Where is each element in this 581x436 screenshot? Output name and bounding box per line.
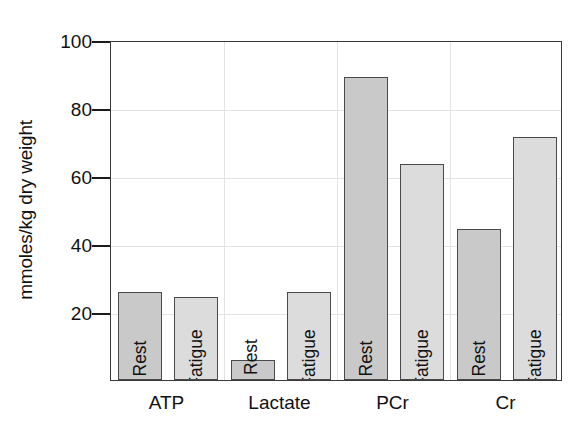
bar-pcr-rest: Rest: [344, 77, 388, 380]
bar-label: Fatigue: [185, 319, 206, 381]
gridline-horizontal: [111, 178, 561, 179]
y-axis-tick-labels: 20406080100: [46, 0, 92, 436]
bar-atp-fatigue: Fatigue: [174, 297, 218, 380]
y-tick-label: 60: [46, 168, 92, 187]
bar-label-outside: Rest: [241, 339, 262, 375]
category-label-lactate: Lactate: [248, 392, 310, 414]
bar-pcr-fatigue: Fatigue: [400, 164, 444, 380]
bar-cr-fatigue: Fatigue: [513, 137, 557, 380]
y-tick-label: 80: [46, 100, 92, 119]
y-tick-mark: [92, 109, 110, 111]
bar-lactate-fatigue: Fatigue: [287, 292, 331, 380]
y-tick-mark: [92, 313, 110, 315]
category-label-pcr: PCr: [376, 392, 409, 414]
category-label-atp: ATP: [149, 392, 185, 414]
bar-label: Rest: [355, 319, 376, 381]
plot-area: RestFatigueRestRestFatigueRestFatigueRes…: [110, 41, 562, 381]
bar-cr-rest: Rest: [457, 229, 501, 380]
category-label-cr: Cr: [495, 392, 515, 414]
bar-label: Fatigue: [411, 319, 432, 381]
y-tick-mark: [92, 245, 110, 247]
bar-label: Rest: [468, 319, 489, 381]
bar-chart: mmoles/kg dry weight 20406080100 RestFat…: [0, 0, 581, 436]
y-tick-mark: [92, 41, 110, 43]
y-tick-label: 20: [46, 304, 92, 323]
bar-atp-rest: Rest: [118, 292, 162, 380]
gridline-vertical: [337, 42, 338, 380]
y-axis-title-text: mmoles/kg dry weight: [15, 120, 37, 300]
y-tick-label: 40: [46, 236, 92, 255]
gridline-horizontal: [111, 110, 561, 111]
y-axis-title: mmoles/kg dry weight: [14, 60, 38, 360]
bar-label: Fatigue: [298, 319, 319, 381]
gridline-vertical: [224, 42, 225, 380]
y-tick-mark: [92, 177, 110, 179]
gridline-vertical: [450, 42, 451, 380]
y-tick-label: 100: [46, 32, 92, 51]
bar-label: Rest: [129, 319, 150, 381]
bar-label: Fatigue: [524, 319, 545, 381]
plot-inner: RestFatigueRestRestFatigueRestFatigueRes…: [111, 42, 561, 380]
